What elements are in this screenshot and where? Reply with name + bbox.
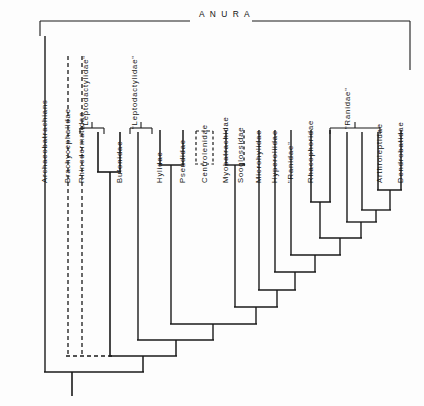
cladogram-lines [0, 0, 424, 406]
node-ladder-c [319, 238, 362, 255]
taxon-label-leptodactylidae-2: "Leptodactylidae" [130, 55, 139, 129]
node-ladder-i [137, 340, 214, 356]
node-ladder-f [258, 290, 296, 307]
taxon-label-pseudidae: Pseudidae [178, 139, 187, 183]
taxon-label-archaeobatrachians: Archaeobatrachians [40, 99, 49, 183]
node-ladder-h [170, 324, 257, 340]
bracket-ranidae-2 [330, 122, 380, 134]
node-ladder-d [290, 255, 341, 272]
taxon-label-brachycephalidae: Brachycephalidae [63, 108, 72, 183]
taxon-label-ranidae-2: "Ranidae" [343, 87, 352, 129]
taxon-label-ranidae-1: "Ranidae" [286, 141, 295, 183]
taxon-label-dendrobatidae: Dendrobatidae [396, 121, 405, 183]
taxon-label-rhacophoridae: Rhacophoridae [306, 120, 315, 183]
node-root [44, 372, 144, 396]
taxon-label-hylidae: Hylidae [155, 151, 164, 183]
node-ladder-b [346, 222, 377, 238]
taxon-label-myobatrachidae: Myobatrachidae [221, 116, 230, 183]
taxon-label-centrolenidae: Centrolenidae [200, 124, 209, 183]
node-ladder-a [361, 210, 391, 222]
node-ladder-e [274, 272, 316, 290]
anura-bracket [40, 21, 410, 70]
cladogram-figure: A N U R A Archaeobatrachians Brachycepha… [0, 0, 424, 406]
node-ladder-g [234, 307, 278, 324]
clade-label-anura: A N U R A [196, 9, 254, 19]
taxon-label-microhylidae: Microhylidae [254, 130, 263, 183]
taxon-label-leptodactylidae-1: "Leptodactylidae" [81, 55, 90, 129]
taxon-label-bufonidae: Bufonidae [115, 141, 124, 183]
taxon-label-hyperoliidae: Hyperoliidae [270, 130, 279, 183]
node-ladder-j [109, 356, 177, 372]
taxon-label-sooglossidae: Sooglossidae [236, 127, 245, 183]
taxon-label-arthroleptidae: Arthroleptidae [375, 123, 384, 183]
